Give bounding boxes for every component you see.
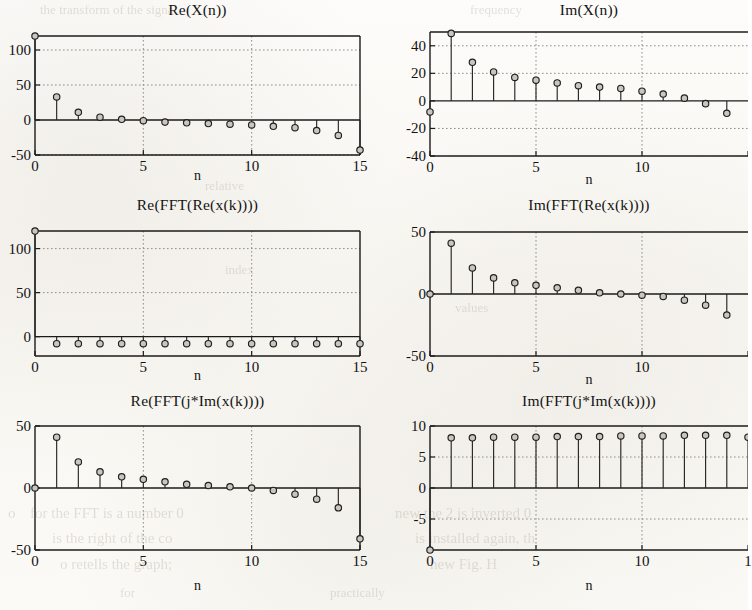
xtick-label: 0 [426,159,434,176]
stem-marker [596,290,602,296]
panel-xlabel-im-xn: n [430,172,748,188]
ytick-label: -50 [11,147,31,164]
stem-marker [533,434,539,440]
stem-marker [183,120,189,126]
xtick-label: 10 [635,553,650,570]
ytick-label: 50 [16,418,31,435]
ytick-label: 0 [24,112,32,129]
ytick-label: 50 [16,284,31,301]
stem-series-re-fft-re-xk [32,228,363,347]
xtick-label: 10 [635,359,650,376]
stem-marker [32,33,38,39]
stem-series-im-fft-jim-xk [427,432,748,553]
ytick-label: 40 [411,37,426,54]
stem-marker [724,312,730,318]
ytick-label: 5 [419,449,427,466]
stem-marker [681,95,687,101]
stem-marker [118,340,124,346]
stem-marker [427,547,433,553]
xtick-label: 5 [532,159,540,176]
stem-marker [533,77,539,83]
ytick-label: 10 [411,418,426,435]
stem-marker [227,340,233,346]
stem-marker [357,536,363,542]
stem-marker [469,265,475,271]
stem-marker [97,114,103,120]
stem-marker [292,125,298,131]
stem-marker [270,487,276,493]
panel-title-re-fft-re-xk: Re(FFT(Re(x(k)))) [0,196,360,214]
stem-marker [575,83,581,89]
stem-marker [357,147,363,153]
stem-marker [724,110,730,116]
stem-marker [575,287,581,293]
stem-marker [75,109,81,115]
xtick-label: 5 [140,158,148,175]
stem-marker [469,435,475,441]
xtick-label: 1 [744,553,752,570]
stem-marker [490,69,496,75]
stem-marker [702,432,708,438]
xtick-label: 0 [31,158,39,175]
xtick-label: 10 [244,158,259,175]
stem-marker [512,280,518,286]
panel-xlabel-im-fft-jim-xk: n [430,578,748,594]
stem-marker [448,30,454,36]
stem-marker [681,432,687,438]
xtick-label: 15 [353,359,368,376]
xtick-label: 0 [426,359,434,376]
xtick-label: 10 [244,359,259,376]
ytick-label: 0 [24,480,32,497]
stem-marker [162,479,168,485]
panel-title-im-xn: Im(X(n)) [0,1,748,19]
stem-marker [702,302,708,308]
xtick-label: 5 [140,359,148,376]
stem-marker [75,340,81,346]
panel-xlabel-re-fft-jim-xk: n [35,578,360,594]
stem-marker [335,132,341,138]
stem-marker [183,340,189,346]
stem-marker [140,118,146,124]
ytick-label: 0 [419,480,427,497]
stem-marker [660,91,666,97]
stem-marker [292,491,298,497]
xtick-label: 15 [353,553,368,570]
panel-title-im-fft-re-xk: Im(FFT(Re(x(k)))) [0,196,748,214]
stem-marker [554,285,560,291]
xtick-label: 15 [353,158,368,175]
stem-marker [53,434,59,440]
stem-marker [596,84,602,90]
panel-title-re-fft-jim-xk: Re(FFT(j*Im(x(k)))) [0,392,360,410]
stem-marker [490,434,496,440]
xtick-label: 10 [244,553,259,570]
stem-marker [248,122,254,128]
stem-marker [335,340,341,346]
stem-marker [745,434,748,440]
stem-marker [183,481,189,487]
panel-title-im-fft-jim-xk: Im(FFT(j*Im(x(k)))) [0,392,748,410]
stem-marker [53,94,59,100]
xtick-label: 5 [532,553,540,570]
xtick-label: 5 [140,553,148,570]
xtick-label: 0 [31,359,39,376]
stem-marker [702,100,708,106]
stem-marker [357,340,363,346]
stem-marker [227,121,233,127]
ytick-label: 50 [16,77,31,94]
stem-marker [248,340,254,346]
stem-series-im-xn [427,30,730,116]
stem-marker [97,340,103,346]
stem-marker [639,292,645,298]
stem-marker [313,340,319,346]
stem-marker [575,433,581,439]
stem-marker [313,496,319,502]
stem-marker [118,474,124,480]
